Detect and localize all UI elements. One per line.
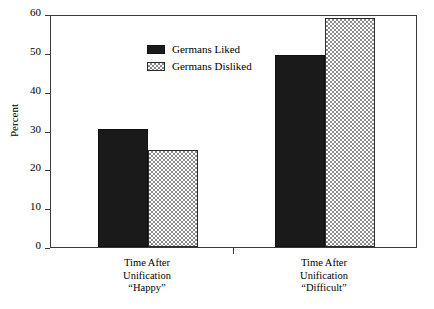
legend-item-germans-liked: Germans Liked bbox=[147, 42, 252, 57]
plot-area: Germans Liked Germans Disliked bbox=[50, 15, 417, 248]
y-axis-tick-label: 30 bbox=[30, 124, 41, 135]
bar-germans-liked bbox=[275, 55, 325, 247]
y-axis-tick-label: 0 bbox=[36, 240, 42, 251]
bar-germans-disliked bbox=[148, 150, 198, 247]
solid-black-swatch-icon bbox=[147, 45, 165, 54]
y-axis-tick-label: 60 bbox=[30, 7, 41, 18]
legend-label: Germans Liked bbox=[172, 44, 240, 55]
y-axis-tick-label: 40 bbox=[30, 85, 41, 96]
bar-germans-disliked bbox=[325, 18, 375, 247]
y-axis-tick-mark bbox=[45, 248, 50, 249]
y-axis-tick-label: 10 bbox=[30, 201, 41, 212]
legend: Germans Liked Germans Disliked bbox=[147, 42, 252, 76]
y-axis-title: Percent bbox=[9, 91, 20, 151]
hatched-gray-swatch-icon bbox=[147, 62, 165, 71]
legend-item-germans-disliked: Germans Disliked bbox=[147, 59, 252, 74]
legend-label: Germans Disliked bbox=[172, 61, 252, 72]
y-axis-tick-label: 50 bbox=[30, 46, 41, 57]
bar-chart: Percent 0102030405060 Germans Liked Germ… bbox=[0, 0, 434, 309]
x-axis-group-label: Time After Unification “Happy” bbox=[87, 257, 207, 295]
x-axis-group-label: Time After Unification “Difficult” bbox=[264, 257, 384, 295]
x-axis-center-tick bbox=[233, 248, 234, 254]
y-axis-tick-label: 20 bbox=[30, 162, 41, 173]
bar-germans-liked bbox=[98, 129, 148, 247]
